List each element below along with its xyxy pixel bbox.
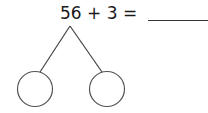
right-part-circle[interactable] (90, 72, 125, 107)
left-part-circle[interactable] (18, 72, 53, 107)
left-branch-line (40, 26, 70, 72)
number-bond-diagram (0, 0, 208, 113)
right-branch-line (70, 26, 102, 72)
